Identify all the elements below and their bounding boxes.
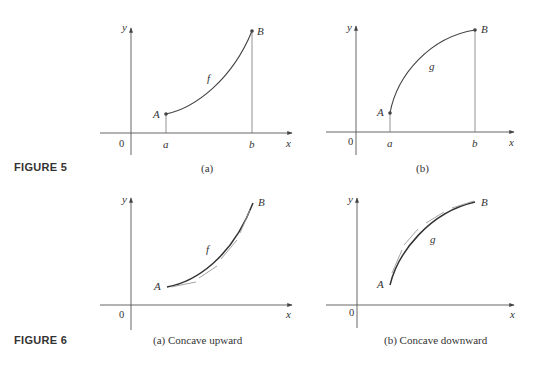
function-f-label: f xyxy=(206,243,211,255)
point-b-dot xyxy=(473,28,477,32)
origin-label: 0 xyxy=(119,138,124,149)
tick-b-label: b xyxy=(249,138,255,150)
point-a-dot xyxy=(164,112,168,116)
origin-label: 0 xyxy=(349,307,354,318)
caption: (a) Concave upward xyxy=(153,334,243,347)
tangent-line xyxy=(221,240,237,259)
origin-label: 0 xyxy=(119,309,124,320)
point-b-label: B xyxy=(481,196,488,208)
fig6-panel-b: y x 0 A B g (b) Concave downward xyxy=(326,193,515,347)
caption: (a) xyxy=(201,162,214,175)
point-b-label: B xyxy=(258,196,265,208)
curve-f xyxy=(167,203,253,287)
point-b-dot xyxy=(250,29,254,33)
point-a-label: A xyxy=(153,280,161,292)
diagram-canvas: y x 0 a b A B f (a) y x 0 a b A B g (b) xyxy=(0,0,537,369)
point-a-label: A xyxy=(376,106,384,118)
function-f-label: f xyxy=(207,72,212,84)
point-a-label: A xyxy=(376,278,384,290)
y-axis-label: y xyxy=(121,21,127,33)
origin-label: 0 xyxy=(348,136,353,147)
fig5-panel-a: y x 0 a b A B f (a) xyxy=(100,21,292,175)
x-axis-label: x xyxy=(508,136,514,148)
tangent-line xyxy=(426,212,444,223)
x-axis-label: x xyxy=(285,308,291,320)
caption: (b) xyxy=(416,162,429,175)
y-axis-label: y xyxy=(121,193,127,205)
tick-a-label: a xyxy=(163,138,169,150)
y-axis-label: y xyxy=(347,193,353,205)
point-a-dot xyxy=(388,111,392,115)
tangent-line xyxy=(452,201,474,208)
point-b-label: B xyxy=(481,23,488,35)
fig6-panel-a: y x 0 A B f (a) Concave upward xyxy=(100,193,292,347)
caption: (b) Concave downward xyxy=(384,334,488,347)
function-g-label: g xyxy=(430,233,436,245)
point-a-label: A xyxy=(152,108,160,120)
x-axis-label: x xyxy=(509,308,515,320)
function-g-label: g xyxy=(429,60,435,72)
tick-b-label: b xyxy=(472,137,478,149)
fig5-panel-b: y x 0 a b A B g (b) xyxy=(326,21,514,175)
tangent-line xyxy=(392,250,402,273)
figure-6-label: FIGURE 6 xyxy=(14,334,67,346)
figure-5-label: FIGURE 5 xyxy=(14,161,67,173)
tick-a-label: a xyxy=(387,137,393,149)
x-axis-label: x xyxy=(285,137,291,149)
point-b-label: B xyxy=(257,25,264,37)
y-axis-label: y xyxy=(346,21,352,33)
tangent-line xyxy=(240,210,250,233)
